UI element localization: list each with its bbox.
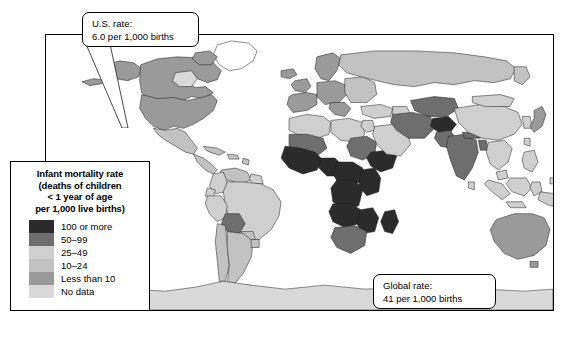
region-iceland <box>281 69 297 79</box>
map-legend: Infant mortality rate (deaths of childre… <box>10 161 150 311</box>
legend-label: 25–49 <box>54 246 87 259</box>
global-rate-value: 41 per 1,000 births <box>383 293 487 306</box>
region-eastern-europe <box>345 77 377 103</box>
legend-entry: 100 or more <box>29 220 149 233</box>
region-philippines <box>522 150 538 172</box>
region-indochina <box>486 140 512 170</box>
region-uk-ireland <box>291 79 311 93</box>
region-japan <box>530 106 546 132</box>
region-central-america <box>193 154 217 174</box>
region-india <box>446 134 478 180</box>
region-france-iberia <box>287 93 317 113</box>
legend-entry: 10–24 <box>29 259 149 272</box>
region-mongolia <box>472 95 514 107</box>
region-lesser-antilles <box>242 158 249 165</box>
legend-swatch <box>29 285 54 298</box>
region-hispaniola <box>227 154 239 159</box>
legend-entry: 50–99 <box>29 233 149 246</box>
region-guyanas <box>249 174 263 184</box>
legend-label: 100 or more <box>54 220 112 233</box>
region-kamchatka <box>514 67 530 85</box>
legend-swatch <box>29 259 54 272</box>
us-rate-label: U.S. rate: <box>92 18 190 31</box>
legend-label: 10–24 <box>54 259 87 272</box>
legend-title: Infant mortality rate (deaths of childre… <box>11 162 149 214</box>
us-rate-value: 6.0 per 1,000 births <box>92 31 190 44</box>
infographic-root: .c { stroke:#1a1a1a; stroke-width:0.5; s… <box>0 0 571 338</box>
region-uruguay <box>251 240 259 248</box>
region-alaska <box>104 61 142 81</box>
legend-entry: 25–49 <box>29 246 149 259</box>
legend-swatch <box>29 220 54 233</box>
region-taiwan <box>524 138 530 146</box>
legend-title-line-1: Infant mortality rate <box>14 168 146 180</box>
global-rate-label: Global rate: <box>383 280 487 293</box>
legend-title-line-4: per 1,000 live births) <box>14 203 146 215</box>
region-madagascar <box>381 210 399 234</box>
legend-entry: No data <box>29 285 149 298</box>
region-borneo <box>506 178 532 196</box>
region-sumatra <box>484 180 510 200</box>
legend-swatch <box>29 246 54 259</box>
legend-label: 50–99 <box>54 233 87 246</box>
region-afghanistan <box>430 116 456 132</box>
region-malaysia <box>496 170 508 180</box>
region-central-europe <box>317 81 347 105</box>
region-united-states <box>140 95 218 131</box>
region-southern-africa <box>331 226 367 254</box>
legend-entry: Less than 10 <box>29 272 149 285</box>
region-mexico <box>154 128 198 154</box>
legend-label: No data <box>54 285 94 298</box>
region-sri-lanka <box>468 182 474 190</box>
region-turkey <box>361 104 393 118</box>
region-aleutians <box>82 79 104 86</box>
region-greenland <box>213 41 257 71</box>
legend-entries: 100 or more 50–99 25–49 10–24 Less than … <box>29 220 149 298</box>
legend-title-line-2: (deaths of children <box>14 180 146 192</box>
region-scandinavia <box>315 53 341 81</box>
region-cuba <box>203 146 225 155</box>
legend-swatch <box>29 233 54 246</box>
legend-swatch <box>29 272 54 285</box>
legend-label: Less than 10 <box>54 272 115 285</box>
region-italy-balkans <box>329 103 351 117</box>
region-new-guinea <box>538 192 553 208</box>
region-pacific-islands <box>550 178 553 184</box>
region-australia <box>490 214 550 260</box>
region-tasmania <box>530 261 538 267</box>
legend-title-line-3: < 1 year of age <box>14 191 146 203</box>
region-angola-zambia <box>329 204 361 228</box>
global-rate-callout: Global rate: 41 per 1,000 births <box>373 274 496 309</box>
us-rate-callout: U.S. rate: 6.0 per 1,000 births <box>82 12 199 47</box>
region-argentina <box>227 232 253 284</box>
region-java <box>506 202 526 208</box>
